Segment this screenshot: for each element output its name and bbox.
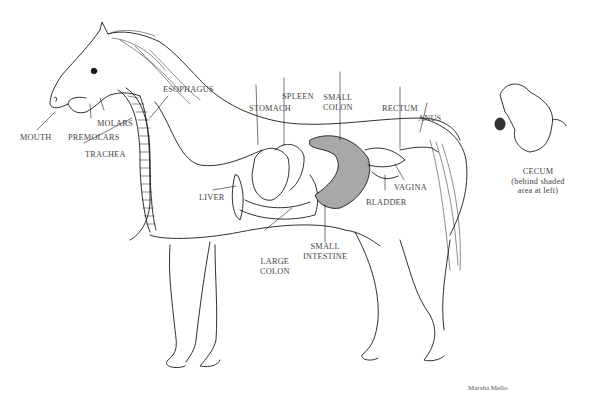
- label-small-colon-line1: SMALL: [323, 93, 353, 103]
- large-colon: [240, 175, 318, 219]
- small-colon-loops: [365, 148, 405, 167]
- liver: [232, 175, 243, 220]
- label-anus: ANUS: [418, 114, 441, 124]
- eye: [91, 68, 97, 74]
- label-small-intestine: SMALL INTESTINE: [303, 242, 347, 261]
- cecum-note-line2: area at left): [503, 186, 573, 196]
- cecum-title: CECUM: [503, 167, 573, 177]
- stomach: [252, 148, 289, 200]
- hind-leg-right: [400, 240, 450, 361]
- label-liver: LIVER: [199, 193, 224, 203]
- label-large-colon-line1: LARGE: [260, 257, 290, 267]
- label-vagina: VAGINA: [394, 183, 427, 193]
- label-small-intestine-line1: SMALL: [303, 242, 347, 252]
- label-molars: MOLARS: [97, 119, 133, 129]
- label-bladder: BLADDER: [366, 198, 407, 208]
- label-spleen: SPLEEN: [282, 92, 314, 102]
- label-premolars: PREMOLARS: [68, 133, 120, 143]
- label-mouth: MOUTH: [20, 133, 51, 143]
- label-esophagus: ESOPHAGUS: [163, 85, 214, 95]
- label-stomach: STOMACH: [249, 104, 291, 114]
- label-rectum: RECTUM: [382, 104, 418, 114]
- head-outline: [100, 22, 460, 140]
- trachea: [118, 88, 156, 232]
- front-leg-left: [166, 245, 185, 368]
- front-leg-right: [186, 242, 220, 367]
- rump-outline: [420, 118, 467, 235]
- cecum-caption: CECUM (behind shaded area at left): [503, 167, 573, 196]
- shaded-small-colon: [310, 136, 370, 209]
- label-small-colon: SMALL COLON: [323, 93, 353, 112]
- hind-leg-left: [355, 232, 378, 360]
- label-trachea: TRACHEA: [85, 150, 126, 160]
- label-large-colon: LARGE COLON: [260, 257, 290, 276]
- cecum-note-line1: (behind shaded: [503, 177, 573, 187]
- horse-illustration: [0, 0, 590, 412]
- cecum-illustration: [495, 84, 566, 152]
- label-large-colon-line2: COLON: [260, 267, 290, 277]
- tail: [430, 140, 460, 270]
- artist-credit: Marsha Mello: [468, 384, 507, 392]
- label-small-intestine-line2: INTESTINE: [303, 252, 347, 262]
- horse-digestive-diagram: MOUTH PREMOLARS MOLARS TRACHEA ESOPHAGUS…: [0, 0, 590, 412]
- label-small-colon-line2: COLON: [323, 103, 353, 113]
- jaw-outline: [68, 97, 86, 104]
- nostril: [54, 97, 57, 101]
